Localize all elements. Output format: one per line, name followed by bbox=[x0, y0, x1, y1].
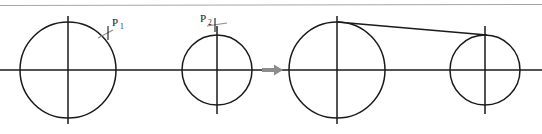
p2-label-subscript: 2 bbox=[208, 18, 212, 27]
left-stage-group: P 1 P 2 bbox=[20, 12, 252, 124]
p1-label-base: P bbox=[112, 16, 118, 28]
figure-canvas: P 1 P 2 bbox=[0, 0, 542, 134]
top-rule bbox=[0, 5, 542, 6]
p2-label-base: P bbox=[200, 12, 206, 24]
p1-cross-marker bbox=[98, 26, 113, 40]
p1-label: P 1 bbox=[112, 16, 124, 31]
transition-arrow-icon bbox=[262, 65, 283, 76]
technical-drawing-figure: P 1 P 2 bbox=[0, 0, 542, 134]
p2-label: P 2 bbox=[200, 12, 212, 27]
tangent-connection-line bbox=[337, 22, 487, 35]
p1-label-subscript: 1 bbox=[120, 22, 124, 31]
